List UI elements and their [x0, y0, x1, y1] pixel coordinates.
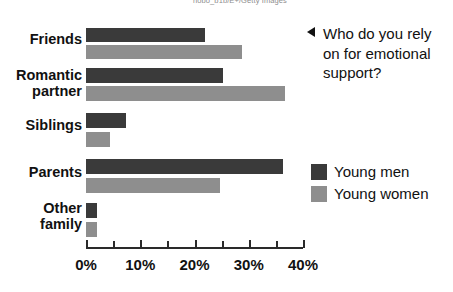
x-axis-tick-0 [86, 240, 88, 248]
category-label-other-family: Other family [40, 201, 82, 232]
chart-question-text: Who do you rely on for emotional support… [323, 24, 449, 83]
x-axis-tick-label-0pct: 0% [62, 256, 110, 273]
bar-friends-young-men [86, 28, 205, 42]
category-label-parents: Parents [29, 165, 82, 181]
x-axis-tick-label-10pct: 10% [116, 256, 164, 273]
bar-romantic-partner-young-men [86, 68, 223, 83]
x-axis-tick-label-30pct: 30% [225, 256, 273, 273]
category-label-friends: Friends [30, 32, 82, 48]
x-axis-tick-20 [195, 240, 197, 248]
legend-swatch-icon [311, 164, 327, 180]
legend-label-young-women: Young women [334, 186, 429, 202]
bar-siblings-young-men [86, 113, 126, 128]
chart-question: Who do you rely on for emotional support… [307, 24, 449, 83]
triangle-left-icon [307, 27, 315, 37]
x-axis-tick-15 [167, 241, 169, 247]
bar-siblings-young-women [86, 132, 110, 147]
x-axis-tick-30 [249, 240, 251, 248]
bar-friends-young-women [86, 45, 242, 59]
category-label-romantic-partner: Romantic partner [16, 68, 82, 99]
legend-label-young-men: Young men [334, 164, 409, 180]
bar-other-family-young-men [86, 203, 97, 218]
legend-swatch-icon [311, 186, 327, 202]
x-axis-tick-label-40pct: 40% [279, 256, 327, 273]
x-axis-tick-label-20pct: 20% [171, 256, 219, 273]
x-axis-tick-35 [276, 241, 278, 247]
x-axis-tick-25 [222, 241, 224, 247]
x-axis-tick-10 [140, 240, 142, 248]
bar-parents-young-women [86, 178, 220, 193]
bar-parents-young-men [86, 159, 283, 174]
bar-romantic-partner-young-women [86, 86, 285, 101]
legend-item-young-men: Young men [311, 161, 451, 183]
x-axis-tick-40 [303, 240, 305, 248]
bar-other-family-young-women [86, 222, 97, 237]
category-label-siblings: Siblings [26, 118, 82, 134]
chart-legend: Young men Young women [311, 161, 451, 205]
x-axis-tick-5 [113, 241, 115, 247]
legend-item-young-women: Young women [311, 183, 451, 205]
